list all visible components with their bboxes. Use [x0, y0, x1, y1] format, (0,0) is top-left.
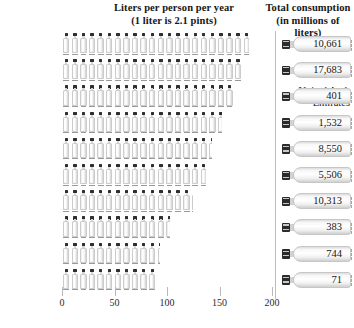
bottle-icon: [105, 216, 114, 238]
total-consumption-column: 10,66117,6834011,5328,5505,50610,3133837…: [282, 33, 354, 295]
horizontal-bottle-icon: 17,683: [282, 61, 353, 79]
total-consumption-row: 10,313: [282, 190, 354, 212]
bottle-icon: [79, 269, 88, 291]
bottle-icon: [131, 59, 140, 81]
bottle-icon: [165, 190, 174, 212]
bottle-icon: [139, 138, 148, 160]
total-consumption-value: 10,661: [293, 35, 347, 53]
bottle-icon: [122, 190, 131, 212]
horizontal-bottle-icon: 8,550: [282, 140, 353, 158]
bottle-icon: [105, 33, 114, 55]
total-consumption-value: 383: [293, 218, 347, 236]
axis-tick-label: 0: [60, 297, 65, 308]
bottle-icon: [217, 33, 226, 55]
horizontal-bottle-icon: 744: [282, 245, 353, 263]
right-heading-line1: Total consumption: [265, 2, 350, 13]
pictogram-bars-area: [62, 33, 272, 295]
bottle-icon: [122, 85, 131, 107]
bottle-icon: [157, 216, 166, 238]
total-consumption-row: 17,683: [282, 59, 354, 81]
bottle-icon: [96, 85, 105, 107]
bottle-icon: [96, 59, 105, 81]
axis-tick-label: 50: [110, 297, 120, 308]
bottle-icon: [105, 59, 114, 81]
bottle-icon: [200, 138, 209, 160]
bottle-icon: [182, 190, 191, 212]
bottle-icon: [131, 243, 140, 265]
pictogram-bar: [62, 85, 234, 107]
bottle-cap-icon: [282, 144, 290, 154]
bottle-icon: [96, 138, 105, 160]
bottle-icon: [191, 190, 193, 212]
bottle-icon: [148, 85, 157, 107]
bottle-icon: [114, 164, 123, 186]
bottle-icon: [105, 138, 114, 160]
bottle-icon: [122, 138, 131, 160]
total-consumption-row: 5,506: [282, 164, 354, 186]
bottle-icon: [148, 164, 157, 186]
bottle-icon: [114, 33, 123, 55]
bottle-cap-icon: [282, 118, 290, 128]
bottle-icon: [139, 269, 148, 291]
total-consumption-row: 744: [282, 243, 354, 265]
bottle-icon: [114, 59, 123, 81]
bottle-icon: [157, 59, 166, 81]
bottle-icon: [208, 33, 217, 55]
bottle-icon: [225, 85, 234, 107]
bottle-icon: [105, 243, 114, 265]
pictogram-bar: [62, 164, 206, 186]
bottle-icon: [200, 85, 209, 107]
horizontal-bottle-icon: 5,506: [282, 166, 353, 184]
bottle-icon: [114, 138, 123, 160]
bottle-icon: [122, 269, 131, 291]
axis-tick: [115, 287, 116, 296]
bottle-icon: [96, 112, 105, 134]
bottle-icon: [165, 112, 174, 134]
bottle-icon: [71, 138, 80, 160]
bottle-icon: [208, 59, 217, 81]
total-consumption-row: 1,532: [282, 112, 354, 134]
bottle-icon: [174, 138, 183, 160]
bottle-icon: [131, 216, 140, 238]
bottle-icon: [139, 243, 148, 265]
bottle-icon: [62, 112, 71, 134]
bottle-icon: [88, 138, 97, 160]
pictogram-bar: [62, 138, 212, 160]
bottle-icon: [165, 216, 170, 238]
pictogram-bar: [62, 216, 170, 238]
bottle-icon: [88, 33, 97, 55]
bottle-icon: [182, 85, 191, 107]
bottle-icon: [122, 59, 131, 81]
bottle-icon: [157, 164, 166, 186]
bottle-icon: [208, 85, 217, 107]
bottle-icon: [96, 190, 105, 212]
left-panel-heading: Liters per person per year (1 liter is 2…: [84, 2, 264, 27]
total-consumption-row: 71: [282, 269, 354, 291]
bottle-cap-icon: [282, 171, 290, 181]
total-consumption-value: 71: [293, 271, 347, 289]
bottle-icon: [191, 33, 200, 55]
bottle-icon: [114, 112, 123, 134]
bottle-cap-icon: [282, 92, 290, 102]
bottle-icon: [182, 33, 191, 55]
bottle-icon: [165, 85, 174, 107]
bottle-icon: [79, 138, 88, 160]
bottle-icon: [148, 190, 157, 212]
bottle-icon: [191, 138, 200, 160]
bottle-icon: [139, 190, 148, 212]
bottle-icon: [62, 216, 71, 238]
bottle-icon: [88, 243, 97, 265]
bottle-icon: [79, 216, 88, 238]
bottle-icon: [88, 112, 97, 134]
bottle-icon: [71, 33, 80, 55]
total-consumption-value: 1,532: [293, 114, 347, 132]
bottle-icon: [225, 59, 234, 81]
bottle-icon: [191, 112, 200, 134]
horizontal-bottle-icon: 10,313: [282, 192, 353, 210]
bottle-icon: [62, 85, 71, 107]
bottle-icon: [191, 85, 200, 107]
bottle-icon: [217, 112, 222, 134]
bottle-icon: [71, 85, 80, 107]
bottle-icon: [122, 33, 131, 55]
bottle-icon: [62, 164, 71, 186]
